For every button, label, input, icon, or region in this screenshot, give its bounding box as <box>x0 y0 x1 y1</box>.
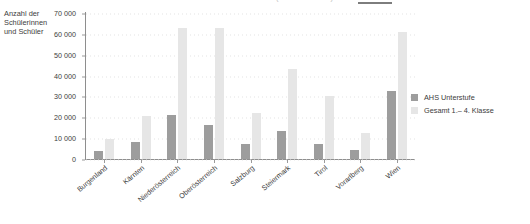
y-axis-tick-mark <box>82 160 85 161</box>
y-axis-tick-label: 50 000 <box>2 52 76 59</box>
chart-title-strip: Anzahl der Schülerinnen und Schüler (AHS… <box>0 0 530 7</box>
bar <box>241 144 250 159</box>
legend-label: AHS Unterstufe <box>424 94 475 102</box>
bar <box>361 133 370 159</box>
y-axis-tick-mark <box>82 76 85 77</box>
bar <box>94 151 103 159</box>
y-axis-tick-label: 60 000 <box>2 31 76 38</box>
y-axis-tick-label: 70 000 <box>2 10 76 17</box>
bar <box>288 69 297 159</box>
bar-group <box>379 14 416 159</box>
x-axis-label-slot: Oberösterreich <box>196 161 233 223</box>
bar-group <box>342 14 379 159</box>
x-axis-label-slot: Vorarlberg <box>342 161 379 223</box>
bar <box>252 113 261 159</box>
bar <box>215 28 224 159</box>
bar-group-container <box>86 14 415 159</box>
bar <box>178 28 187 159</box>
x-axis-label-k-rnten: Kärnten <box>122 164 146 186</box>
bar <box>325 96 334 159</box>
bar-group <box>86 14 123 159</box>
chart-plot-area: 010 00020 00030 00040 00050 00060 00070 … <box>85 14 415 160</box>
y-axis-tick-mark <box>82 139 85 140</box>
bar <box>398 32 407 159</box>
legend-label: Gesamt 1.– 4. Klasse <box>424 107 494 115</box>
y-axis-tick-label: 10 000 <box>2 136 76 143</box>
bar-group <box>232 14 269 159</box>
x-axis-label-slot: Burgenland <box>86 161 123 223</box>
bar-group <box>196 14 233 159</box>
bar-group <box>159 14 196 159</box>
x-axis-label-group: BurgenlandKärntenNiederösterreichOberöst… <box>86 161 415 223</box>
bar-group <box>123 14 160 159</box>
x-axis-label-wien: Wien <box>384 164 402 181</box>
x-axis-label-tirol: Tirol <box>313 164 329 179</box>
x-axis-label-burgenland: Burgenland <box>76 164 109 194</box>
y-axis-tick-mark <box>82 97 85 98</box>
y-axis-tick-mark <box>82 55 85 56</box>
y-axis-tick-label: 20 000 <box>2 115 76 122</box>
x-axis-label-slot: Tirol <box>305 161 342 223</box>
y-axis-tick-label: 40 000 <box>2 73 76 80</box>
bar-group <box>305 14 342 159</box>
bar <box>350 150 359 159</box>
chart-title: Anzahl der Schülerinnen und Schüler (AHS… <box>150 0 333 2</box>
bar <box>204 125 213 159</box>
bar <box>314 144 323 159</box>
x-axis-label-slot: Salzburg <box>232 161 269 223</box>
bar <box>131 142 140 159</box>
bar <box>105 139 114 159</box>
y-axis-tick-mark <box>82 118 85 119</box>
legend-item: AHS Unterstufe <box>411 91 494 104</box>
y-axis-tick-label: 0 <box>2 156 76 163</box>
bar <box>142 116 151 159</box>
y-axis-tick-mark <box>82 34 85 35</box>
bar <box>277 131 286 159</box>
y-axis-tick-mark <box>82 14 85 15</box>
title-underline-rule <box>358 2 392 4</box>
y-axis-tick-label: 30 000 <box>2 94 76 101</box>
x-axis-label-slot: Wien <box>379 161 416 223</box>
chart-legend: AHS UnterstufeGesamt 1.– 4. Klasse <box>411 91 494 117</box>
x-axis-label-slot: Steiermark <box>269 161 306 223</box>
bar-group <box>269 14 306 159</box>
legend-item: Gesamt 1.– 4. Klasse <box>411 104 494 117</box>
legend-swatch-icon <box>411 94 418 101</box>
legend-swatch-icon <box>411 107 418 114</box>
bar <box>167 115 176 159</box>
x-axis-label-salzburg: Salzburg <box>229 164 256 188</box>
bar <box>387 91 396 159</box>
